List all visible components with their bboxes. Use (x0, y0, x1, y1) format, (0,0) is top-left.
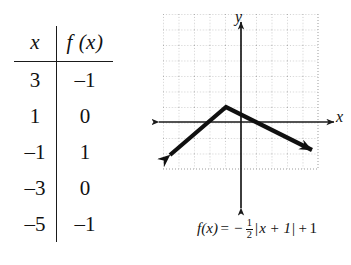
table-header-row: x f (x) (14, 26, 113, 62)
table-cell-fx: 0 (57, 98, 114, 134)
table-cell-x: –3 (14, 170, 57, 206)
equation-fraction: 12 (246, 218, 253, 240)
table-row: 3 –1 (14, 62, 113, 99)
fraction-denominator: 2 (246, 229, 253, 241)
value-table-panel: x f (x) 3 –1 1 0 –1 1 –3 0 (0, 0, 152, 265)
equation-plus: + (298, 220, 306, 236)
table-cell-fx: –1 (57, 206, 114, 242)
table-header-x: x (14, 26, 57, 62)
table-cell-x: –5 (14, 206, 57, 242)
table-cell-fx: 1 (57, 134, 114, 170)
fraction-numerator: 1 (246, 218, 253, 229)
value-table: x f (x) 3 –1 1 0 –1 1 –3 0 (14, 26, 113, 242)
equation-inner: x + 1 (259, 220, 291, 236)
abs-bar-close: | (292, 220, 295, 236)
table-cell-x: 3 (14, 62, 57, 99)
table-row: 1 0 (14, 98, 113, 134)
abs-bar-open: | (255, 220, 258, 236)
equation-leading-minus: − (234, 220, 242, 236)
coordinate-plane (152, 0, 351, 218)
table-cell-fx: 0 (57, 170, 114, 206)
table-row: –1 1 (14, 134, 113, 170)
table-cell-x: 1 (14, 98, 57, 134)
x-axis-label: x (336, 108, 343, 126)
graph-panel: y x f(x)=−12|x + 1|+1 (152, 0, 351, 265)
table-row: –3 0 (14, 170, 113, 206)
equation-equals: = (220, 220, 228, 236)
equation-constant: 1 (309, 220, 317, 236)
table-header-fx: f (x) (57, 26, 114, 62)
table-cell-x: –1 (14, 134, 57, 170)
figure-container: x f (x) 3 –1 1 0 –1 1 –3 0 (0, 0, 351, 265)
table-cell-fx: –1 (57, 62, 114, 99)
function-equation: f(x)=−12|x + 1|+1 (162, 218, 351, 240)
y-axis-label: y (235, 8, 242, 26)
table-row: –5 –1 (14, 206, 113, 242)
equation-lhs: f(x) (197, 220, 218, 236)
